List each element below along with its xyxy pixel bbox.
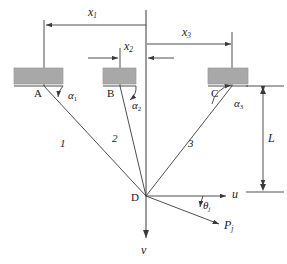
angle-arcs	[58, 85, 231, 104]
cable-number-2: 2	[112, 133, 118, 144]
angle-label-alpha-3: α3	[234, 98, 243, 110]
anchor-label-c: C	[211, 88, 218, 99]
L-arrow-down	[260, 184, 266, 191]
dimension-L	[246, 86, 284, 192]
axis-label-v: v	[141, 244, 146, 256]
dimension-label-x1: x1	[88, 6, 97, 19]
cable-number-1: 1	[60, 138, 66, 149]
arc-alpha-2	[130, 86, 136, 100]
support-blocks	[14, 68, 248, 84]
dimension-label-x3: x3	[182, 26, 191, 39]
angle-label-alpha-1: α1	[68, 90, 77, 102]
figure-canvas: x1 x2 x3 L A B C D α1 α2 α3 1 2 3 u v θj…	[0, 0, 287, 264]
load-label-p: Pj	[224, 219, 233, 232]
block-b	[103, 68, 136, 84]
L-arrow-up	[260, 87, 266, 94]
angle-label-theta: θj	[203, 200, 210, 212]
joint-label-d: D	[131, 192, 139, 203]
angle-label-alpha-2: α2	[132, 100, 141, 112]
block-c	[208, 68, 248, 84]
axis-label-u: u	[232, 188, 238, 200]
arc-alpha-1	[58, 86, 63, 97]
block-a	[14, 68, 63, 84]
anchor-label-a: A	[34, 88, 42, 99]
diagram-svg	[0, 0, 287, 264]
anchor-label-b: B	[107, 88, 114, 99]
cable-number-3: 3	[188, 138, 194, 149]
dimension-label-L: L	[268, 132, 275, 144]
dimension-label-x2: x2	[124, 40, 133, 53]
extension-lines	[44, 20, 232, 86]
